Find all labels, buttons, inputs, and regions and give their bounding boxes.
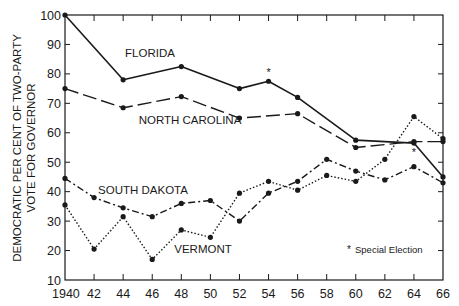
data-point-marker [295,179,300,184]
data-point-marker [179,94,184,99]
data-point-marker [208,235,213,240]
data-point-marker [353,138,358,143]
data-point-marker [382,157,387,162]
x-tick-label: 58 [320,287,334,301]
y-tick-label: 30 [47,215,61,229]
special-election-label: Special Election [355,244,423,255]
x-tick-label: 66 [436,287,450,301]
data-point-marker [179,64,184,69]
y-tick-label: 10 [47,274,61,288]
data-point-marker [353,145,358,150]
y-tick-label: 90 [47,38,61,52]
data-point-marker [121,77,126,82]
y-tick-label: 60 [47,126,61,140]
data-point-marker [440,136,445,141]
y-tick-label: 20 [47,244,61,258]
data-point-marker [121,205,126,210]
x-tick-label: 56 [291,287,305,301]
y-tick-label: 100 [40,9,61,23]
series-label-vermont: VERMONT [174,243,232,255]
x-tick-label: 1940 [52,287,80,301]
data-point-marker [411,114,416,119]
x-tick-label: 50 [203,287,217,301]
data-point-marker [440,174,445,179]
data-point-marker [382,177,387,182]
x-tick-label: 64 [407,287,421,301]
data-point-marker [179,201,184,206]
data-point-marker [353,179,358,184]
y-axis-label-line2: VOTE FOR GOVERNOR [25,83,37,212]
data-point-marker [208,198,213,203]
data-point-marker [62,12,67,17]
x-tick-label: 52 [233,287,247,301]
data-point-marker [411,139,416,144]
data-point-marker [411,164,416,169]
y-tick-label: 80 [47,67,61,81]
data-point-marker [91,246,96,251]
x-tick-label: 44 [116,287,130,301]
y-tick-label: 40 [47,185,61,199]
chart-canvas: DEMOCRATIC PER CENT OF TWO-PARTY VOTE FO… [0,0,459,306]
data-point-marker [440,180,445,185]
data-point-marker [295,95,300,100]
series-line-north-carolina [65,89,443,148]
y-tick-label: 50 [47,156,61,170]
data-point-marker [179,227,184,232]
x-tick-label: 48 [174,287,188,301]
series-label-florida: FLORIDA [125,47,175,59]
x-tick-label: 46 [145,287,159,301]
series-labels: FLORIDANORTH CAROLINASOUTH DAKOTAVERMONT [98,47,242,255]
series-label-south-dakota: SOUTH DAKOTA [98,184,188,196]
data-point-marker [62,176,67,181]
axes [65,15,443,280]
x-axis-ticks: 194042444648505254565860626466 [52,15,450,301]
data-point-marker [62,86,67,91]
data-point-marker [295,111,300,116]
data-point-marker [324,157,329,162]
series-line-florida [65,15,443,177]
data-point-marker [91,195,96,200]
data-point-marker [266,191,271,196]
data-point-marker [150,214,155,219]
y-axis-label-line1: DEMOCRATIC PER CENT OF TWO-PARTY [11,34,23,262]
x-tick-label: 54 [262,287,276,301]
plot-frame [65,15,443,280]
x-tick-label: 60 [349,287,363,301]
data-point-marker [62,202,67,207]
data-point-marker [353,168,358,173]
data-point-marker [121,105,126,110]
data-point-marker [266,79,271,84]
data-point-marker [121,214,126,219]
special-election-note: * Special Election [347,244,423,255]
data-point-marker [150,257,155,262]
x-tick-label: 42 [87,287,101,301]
series-lines: ** [62,12,445,262]
y-axis-label: DEMOCRATIC PER CENT OF TWO-PARTY VOTE FO… [11,34,37,262]
data-point-marker [237,191,242,196]
y-tick-label: 70 [47,97,61,111]
special-election-asterisk: * [347,244,351,255]
series-label-north-carolina: NORTH CAROLINA [139,114,242,126]
x-tick-label: 62 [378,287,392,301]
data-point-marker [237,86,242,91]
series-north-carolina: * [62,86,445,158]
special-election-marker: * [266,66,271,78]
line-chart: DEMOCRATIC PER CENT OF TWO-PARTY VOTE FO… [0,0,459,306]
special-election-marker: * [412,146,417,158]
data-point-marker [237,219,242,224]
data-point-marker [295,188,300,193]
data-point-marker [324,173,329,178]
data-point-marker [266,179,271,184]
